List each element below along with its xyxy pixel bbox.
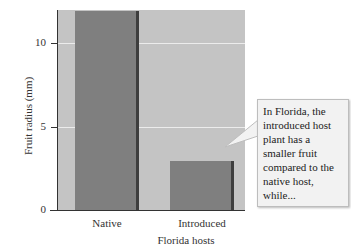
callout-pointer-icon (225, 118, 261, 148)
y-axis-title: Fruit radius (mm) (22, 66, 34, 166)
annotation-callout: In Florida, the introduced host plant ha… (257, 99, 349, 207)
y-axis (57, 10, 58, 211)
y-tick-label-10: 10 (26, 36, 46, 48)
y-tick-5 (51, 127, 57, 128)
y-tick-label-0: 0 (26, 203, 46, 215)
x-axis (50, 210, 245, 211)
bar-introduced (170, 161, 234, 210)
x-label-introduced: Introduced (162, 217, 242, 229)
plot-area (57, 10, 245, 210)
x-axis-title: Florida hosts (126, 234, 246, 246)
bar-native (75, 11, 139, 210)
y-tick-10 (51, 43, 57, 44)
x-label-native: Native (67, 217, 147, 229)
